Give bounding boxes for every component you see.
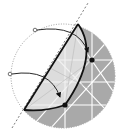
- open-point-upper: [33, 28, 37, 32]
- filled-point-upper: [89, 57, 94, 62]
- folding-diagram: [0, 0, 126, 131]
- filled-point-lower: [62, 102, 67, 107]
- open-point-lower: [8, 72, 12, 76]
